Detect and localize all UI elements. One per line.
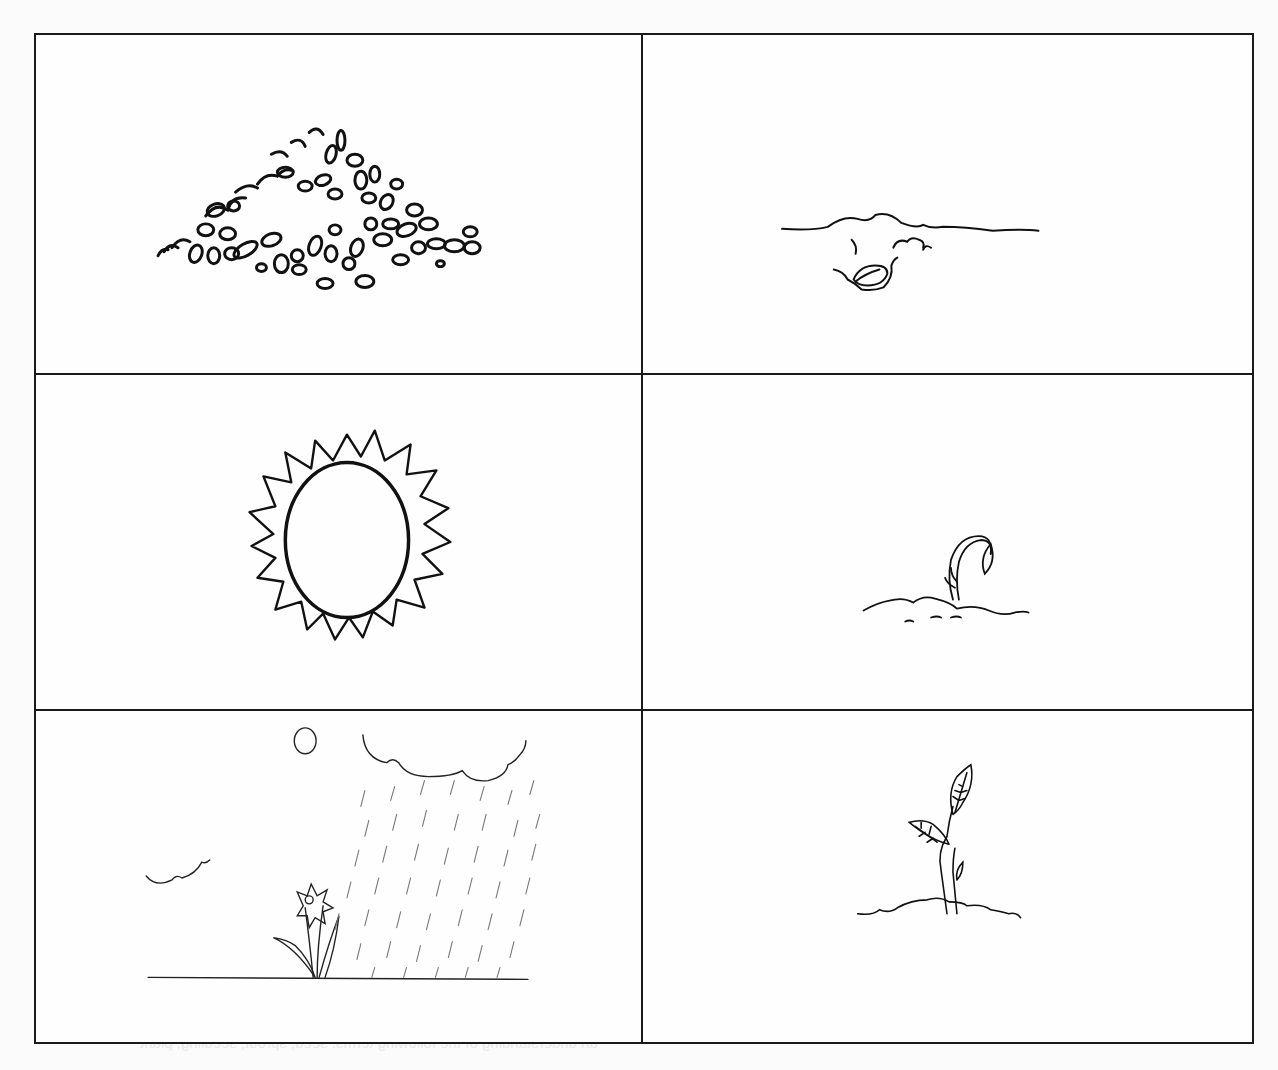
panel-seeds: A pile of seeds (36, 35, 643, 375)
panel-sun: The sun (36, 375, 643, 711)
rain-scene-icon (36, 711, 641, 1042)
sprout-icon (643, 375, 1252, 709)
panel-seed-in-soil: A seed planted in the soil (643, 35, 1252, 375)
panel-rain: Rain falling on a flower (36, 711, 643, 1042)
sun-icon (36, 375, 641, 709)
panel-sprout: A sprout emerging from the soil (643, 375, 1252, 711)
picture-grid: A pile of seeds (34, 33, 1254, 1044)
panel-seedling: A seedling with leaves (643, 711, 1252, 1042)
seed-in-soil-icon (643, 35, 1252, 373)
rain-drops (335, 781, 540, 978)
sun-small (294, 728, 316, 754)
seeds-pile-icon (36, 35, 641, 373)
seedling-icon (643, 711, 1252, 1042)
